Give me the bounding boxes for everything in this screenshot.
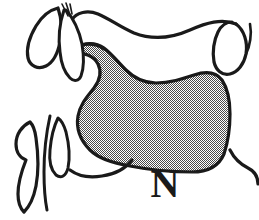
phoneme-label: N xyxy=(143,164,187,204)
vocal-tract-diagram xyxy=(0,0,259,220)
articulation-figure: N xyxy=(0,0,259,220)
